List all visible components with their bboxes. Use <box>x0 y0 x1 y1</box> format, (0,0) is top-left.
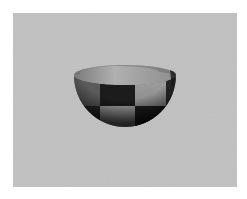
bowl-render <box>0 0 247 199</box>
